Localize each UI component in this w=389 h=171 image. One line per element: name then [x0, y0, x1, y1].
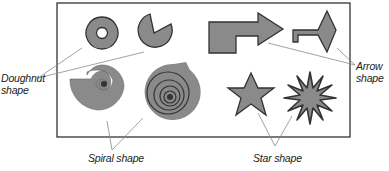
star-label: Star shape: [253, 152, 302, 164]
spiral-label: Spiral shape: [88, 152, 144, 164]
pie-shape: [138, 14, 172, 47]
arrow-label: Arrow shape: [356, 60, 384, 84]
doughnut-label-line1: Doughnut: [1, 72, 45, 84]
shape-types-diagram: Doughnut shape Arrow shape Spiral shape …: [0, 0, 389, 171]
doughnut-label: Doughnut shape: [1, 72, 45, 96]
diagram-canvas: [0, 0, 389, 171]
diamond-arrow-shape: [293, 11, 336, 52]
doughnut-label-line2: shape: [1, 84, 45, 96]
open-spiral-shape: [70, 65, 124, 110]
doughnut-shape: [86, 17, 118, 49]
arrow-label-line1: Arrow: [356, 60, 384, 72]
five-point-star-shape: [228, 73, 274, 115]
tight-spiral-shape: [145, 62, 201, 120]
bent-arrow-shape: [209, 13, 283, 53]
arrow-label-line2: shape: [356, 72, 384, 84]
